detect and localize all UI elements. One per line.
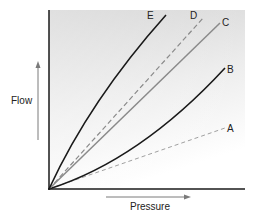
label-a: A: [227, 123, 234, 134]
pressure-arrow-head-icon: [184, 195, 191, 200]
label-c: C: [222, 17, 229, 28]
flow-pressure-diagram: E D C B A Flow Pressure: [0, 0, 254, 222]
label-b: B: [227, 64, 234, 75]
flow-arrow-head-icon: [36, 61, 41, 68]
label-e: E: [147, 10, 154, 21]
x-axis-label: Pressure: [130, 201, 170, 212]
label-d: D: [190, 10, 197, 21]
y-axis-label: Flow: [11, 95, 33, 106]
